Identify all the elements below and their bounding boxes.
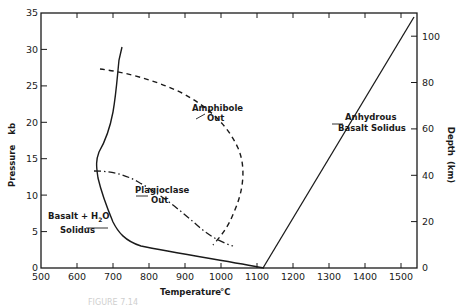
svg-text:25: 25 xyxy=(26,80,38,91)
svg-text:Solidus: Solidus xyxy=(60,225,95,235)
svg-text:Plagioclase: Plagioclase xyxy=(135,185,189,195)
svg-text:60: 60 xyxy=(422,123,434,134)
phase-diagram: 500 600 700 800 900 1000 1100 1200 1300 … xyxy=(0,0,456,306)
svg-text:1200: 1200 xyxy=(281,271,305,282)
svg-text:100: 100 xyxy=(422,31,440,42)
svg-text:1500: 1500 xyxy=(389,271,413,282)
x-ticks xyxy=(77,13,401,268)
svg-text:Amphibole: Amphibole xyxy=(192,103,243,113)
svg-text:80: 80 xyxy=(422,77,434,88)
basalt-h2o-solidus-curve xyxy=(97,47,264,268)
svg-text:600: 600 xyxy=(68,271,86,282)
svg-text:40: 40 xyxy=(422,170,434,181)
y2-ticks xyxy=(411,36,417,221)
annotation-plagioclase-out: Plagioclase Out xyxy=(135,185,189,205)
svg-text:15: 15 xyxy=(26,153,38,164)
svg-text:Out: Out xyxy=(151,195,168,205)
svg-text:20: 20 xyxy=(422,216,434,227)
svg-text:20: 20 xyxy=(26,117,38,128)
svg-text:Basalt + H2O: Basalt + H2O xyxy=(48,211,110,223)
annotation-basalt-h2o-solidus: Basalt + H2O Solidus xyxy=(48,211,110,235)
y-ticks xyxy=(41,49,47,231)
svg-text:Pressurekb: Pressurekb xyxy=(7,123,17,187)
svg-text:30: 30 xyxy=(26,44,38,55)
svg-text:700: 700 xyxy=(104,271,122,282)
svg-text:Anhydrous: Anhydrous xyxy=(345,112,396,122)
svg-text:900: 900 xyxy=(176,271,194,282)
svg-text:Out: Out xyxy=(207,113,224,123)
svg-text:5: 5 xyxy=(32,226,38,237)
plagioclase-out-curve xyxy=(94,171,233,246)
svg-text:Basalt Solidus: Basalt Solidus xyxy=(338,123,406,133)
annotation-anhydrous-solidus: Anhydrous Basalt Solidus xyxy=(332,112,406,133)
svg-text:0: 0 xyxy=(32,262,38,273)
svg-text:1000: 1000 xyxy=(209,271,233,282)
annotation-amphibole-out: Amphibole Out xyxy=(192,103,243,123)
svg-text:1100: 1100 xyxy=(245,271,269,282)
svg-text:800: 800 xyxy=(140,271,158,282)
y2-axis-title: Depth(km) xyxy=(446,127,456,183)
anhydrous-basalt-solidus-curve xyxy=(263,17,414,268)
x-axis-title: Temperature °C xyxy=(160,287,231,297)
svg-text:35: 35 xyxy=(26,7,38,18)
figure-caption: FIGURE 7.14 xyxy=(88,298,138,306)
y-tick-labels: 0 5 10 15 20 25 30 35 xyxy=(26,7,38,273)
svg-text:°C: °C xyxy=(220,287,231,297)
svg-text:Depth(km): Depth(km) xyxy=(446,127,456,183)
svg-text:10: 10 xyxy=(26,190,38,201)
y-axis-title: Pressurekb xyxy=(7,123,17,187)
x-tick-labels: 500 600 700 800 900 1000 1100 1200 1300 … xyxy=(32,271,413,282)
amphibole-out-curve xyxy=(100,69,243,245)
y2-tick-labels: 0 20 40 60 80 100 xyxy=(422,31,440,273)
svg-text:1400: 1400 xyxy=(353,271,377,282)
svg-text:0: 0 xyxy=(422,262,428,273)
plot-frame xyxy=(41,13,417,268)
svg-text:1300: 1300 xyxy=(317,271,341,282)
svg-text:Temperature: Temperature xyxy=(160,287,221,297)
